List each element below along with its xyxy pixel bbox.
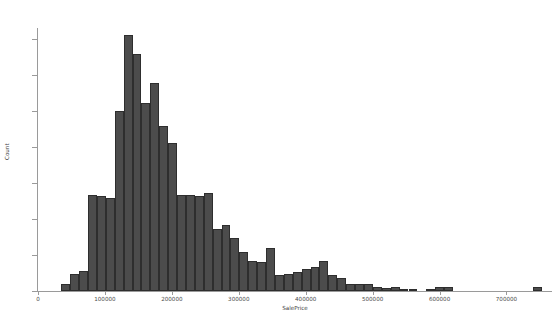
histogram-bar xyxy=(115,111,124,291)
histogram-bar xyxy=(391,287,400,291)
y-axis-tick xyxy=(32,291,37,292)
histogram-bar xyxy=(319,261,328,291)
histogram-bar xyxy=(346,284,355,291)
y-axis-tick xyxy=(32,147,37,148)
y-axis-tick xyxy=(32,255,37,256)
histogram-bar xyxy=(186,195,195,291)
histogram-bars xyxy=(38,28,552,291)
x-axis-tick-label: 400000 xyxy=(295,297,316,303)
histogram-bar xyxy=(382,288,391,291)
histogram-bar xyxy=(159,126,168,291)
x-axis-tick-label: 700000 xyxy=(496,297,517,303)
histogram-bar xyxy=(400,289,409,291)
x-axis-tick xyxy=(506,291,507,295)
histogram-bar xyxy=(373,287,382,291)
histogram-figure: 0255075100125150175 01000002000003000004… xyxy=(0,0,557,323)
histogram-bar xyxy=(239,252,248,291)
histogram-bar xyxy=(533,287,542,291)
x-axis-tick xyxy=(38,291,39,295)
y-axis-tick xyxy=(32,111,37,112)
x-axis-tick xyxy=(373,291,374,295)
y-axis-tick xyxy=(32,219,37,220)
x-axis-line xyxy=(37,291,552,292)
histogram-bar xyxy=(293,272,302,291)
x-axis-tick xyxy=(440,291,441,295)
y-axis-tick xyxy=(32,183,37,184)
x-axis-tick-label: 300000 xyxy=(228,297,249,303)
histogram-bar xyxy=(426,289,435,291)
histogram-bar xyxy=(266,248,275,291)
histogram-bar xyxy=(337,278,346,291)
histogram-bar xyxy=(213,229,222,291)
histogram-bar xyxy=(195,196,204,291)
histogram-bar xyxy=(328,275,337,291)
x-axis-tick-label: 0 xyxy=(36,297,40,303)
histogram-bar xyxy=(79,271,88,291)
x-axis-tick xyxy=(105,291,106,295)
x-axis-tick-label: 600000 xyxy=(429,297,450,303)
histogram-bar xyxy=(222,225,231,291)
histogram-bar xyxy=(88,195,97,291)
y-axis-label: Count xyxy=(5,143,11,160)
histogram-bar xyxy=(133,54,142,291)
histogram-bar xyxy=(168,143,177,291)
histogram-bar xyxy=(97,196,106,291)
x-axis-tick-label: 100000 xyxy=(94,297,115,303)
histogram-bar xyxy=(177,195,186,291)
histogram-bar xyxy=(257,262,266,291)
histogram-bar xyxy=(204,193,213,291)
histogram-bar xyxy=(355,284,364,291)
histogram-bar xyxy=(435,287,444,291)
x-axis-label: SalePrice xyxy=(38,306,552,312)
histogram-bar xyxy=(230,238,239,291)
x-axis-tick xyxy=(306,291,307,295)
histogram-bar xyxy=(275,275,284,291)
x-axis-tick xyxy=(239,291,240,295)
histogram-bar xyxy=(284,274,293,291)
y-axis-tick xyxy=(32,75,37,76)
x-axis-tick-label: 200000 xyxy=(161,297,182,303)
x-axis-tick xyxy=(172,291,173,295)
histogram-bar xyxy=(302,269,311,291)
x-axis-tick-label: 500000 xyxy=(362,297,383,303)
histogram-bar xyxy=(364,284,373,291)
histogram-bar xyxy=(311,267,320,291)
histogram-bar xyxy=(124,35,133,291)
histogram-bar xyxy=(106,198,115,291)
y-axis-tick xyxy=(32,39,37,40)
histogram-bar xyxy=(141,103,150,291)
histogram-bar xyxy=(409,289,418,291)
histogram-bar xyxy=(444,287,453,291)
histogram-bar xyxy=(61,284,70,291)
histogram-bar xyxy=(248,261,257,291)
histogram-bar xyxy=(150,83,159,291)
plot-area xyxy=(38,28,552,291)
histogram-bar xyxy=(70,274,79,291)
